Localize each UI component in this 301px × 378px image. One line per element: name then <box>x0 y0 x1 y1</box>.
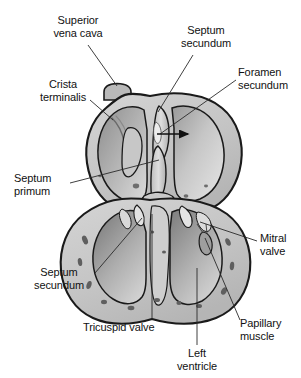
label-line-2: secundum <box>238 79 288 91</box>
label-septum-secundum-top: Septumsecundum <box>181 24 231 49</box>
label-line-2: muscle <box>240 330 274 342</box>
label-line-2: valve <box>260 245 285 257</box>
label-foramen-secundum: Foramensecundum <box>238 66 288 91</box>
label-septum-secundum-bottom: Septumsecundum <box>34 266 84 291</box>
label-line-1: Foramen <box>238 66 281 78</box>
label-line-1: Mitral <box>260 232 286 244</box>
label-line-2: terminalis <box>40 91 86 103</box>
label-line-1: Septum <box>14 172 51 184</box>
label-line-1: Superior <box>58 14 99 26</box>
leader-superior-vena-cava <box>88 45 117 86</box>
label-papillary-muscle: Papillarymuscle <box>240 317 281 342</box>
label-line-2: secundum <box>34 279 84 291</box>
label-left-ventricle: Leftventricle <box>177 347 217 372</box>
label-mitral-valve: Mitralvalve <box>260 232 286 257</box>
label-superior-vena-cava: Superiorvena cava <box>53 14 102 39</box>
ventricular-region <box>61 199 251 324</box>
label-line-1: Crista <box>49 78 77 90</box>
label-septum-primum: Septumprimum <box>14 172 51 197</box>
label-line-2: ventricle <box>177 360 217 372</box>
label-line-1: Septum <box>40 266 77 278</box>
label-line-1: Septum <box>187 24 224 36</box>
label-line-2: primum <box>14 185 50 197</box>
label-line-1: Left <box>188 347 206 359</box>
label-crista-terminalis: Cristaterminalis <box>40 78 86 103</box>
label-line-1: Tricuspid valve <box>83 321 154 333</box>
label-tricuspid-valve: Tricuspid valve <box>83 321 154 334</box>
label-line-2: vena cava <box>53 27 102 39</box>
label-line-2: secundum <box>181 37 231 49</box>
interventricular-septum <box>150 206 169 305</box>
anatomical-figure: Superiorvena cava Septumsecundum Foramen… <box>0 0 301 378</box>
label-line-1: Papillary <box>240 317 281 329</box>
